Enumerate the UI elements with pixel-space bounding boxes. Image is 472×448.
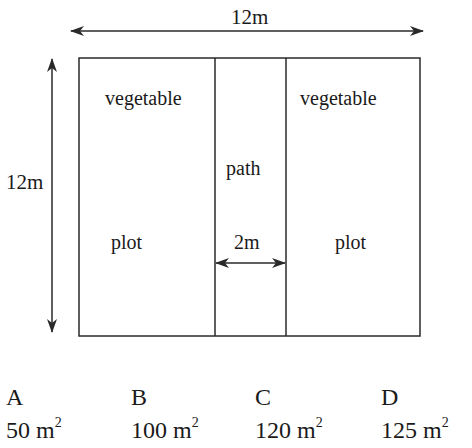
left-plot-top-label: vegetable <box>105 88 182 108</box>
option-b-value: 100 m2 <box>131 418 199 442</box>
option-c-value: 120 m2 <box>255 418 323 442</box>
width-label: 12m <box>231 7 268 28</box>
garden-diagram <box>0 0 472 448</box>
right-plot-bottom-label: plot <box>335 232 366 252</box>
left-plot-bottom-label: plot <box>111 232 142 252</box>
option-a-value: 50 m2 <box>6 418 62 442</box>
option-a-letter: A <box>6 385 23 409</box>
height-label: 12m <box>6 172 43 193</box>
option-d-value: 125 m2 <box>381 418 449 442</box>
option-d-letter: D <box>381 385 398 409</box>
option-c-letter: C <box>255 385 271 409</box>
option-b-letter: B <box>131 385 147 409</box>
path-width-label: 2m <box>234 232 260 252</box>
right-plot-top-label: vegetable <box>300 88 377 108</box>
path-label: path <box>226 158 260 178</box>
